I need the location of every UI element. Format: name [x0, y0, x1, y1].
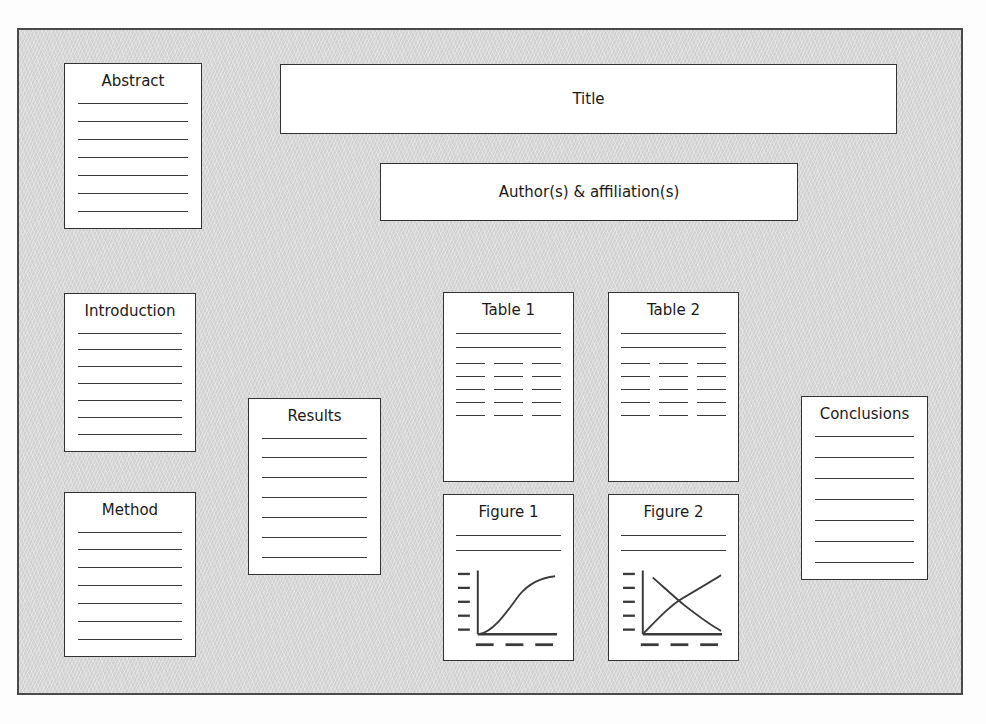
figure-1-caption-lines	[456, 535, 561, 551]
table-row	[621, 402, 726, 403]
text-rule	[78, 333, 182, 334]
table-cell	[697, 402, 726, 403]
table-row	[456, 415, 561, 416]
text-rule	[78, 175, 188, 176]
table-cell	[532, 415, 561, 416]
table-cell	[697, 363, 726, 364]
figure-2-caption-lines	[621, 535, 726, 551]
table-cell	[621, 363, 650, 364]
table-row	[456, 376, 561, 377]
text-rule	[262, 497, 367, 498]
text-rule	[815, 520, 914, 521]
panel-figure-1[interactable]: Figure 1	[443, 494, 574, 661]
table-cell	[621, 376, 650, 377]
table-cell	[532, 376, 561, 377]
text-rule	[78, 211, 188, 212]
panel-conclusions-title: Conclusions	[815, 406, 914, 423]
text-rule	[262, 457, 367, 458]
table-row	[621, 376, 726, 377]
table-cell	[532, 389, 561, 390]
table-cell	[456, 363, 485, 364]
text-rule	[262, 537, 367, 538]
table-2-body	[621, 363, 726, 416]
text-rule	[815, 457, 914, 458]
text-rule	[815, 436, 914, 437]
text-rule	[78, 193, 188, 194]
table-cell	[456, 389, 485, 390]
text-rule	[815, 478, 914, 479]
panel-authors-banner[interactable]: Author(s) & affiliation(s)	[380, 163, 798, 221]
table-header-rule	[456, 347, 561, 348]
abstract-text-lines	[78, 103, 188, 217]
curve-1	[479, 576, 555, 634]
table-row	[621, 415, 726, 416]
table-cell	[621, 415, 650, 416]
table-cell	[494, 415, 523, 416]
poster-board: Abstract Title Author(s) & affiliation(s…	[17, 28, 963, 695]
caption-rule	[456, 535, 561, 536]
panel-table-2[interactable]: Table 2	[608, 292, 739, 482]
text-rule	[815, 562, 914, 563]
text-rule	[78, 400, 182, 401]
table-1-body	[456, 363, 561, 416]
text-rule	[78, 349, 182, 350]
panel-table-2-title: Table 2	[621, 302, 726, 319]
table-cell	[456, 415, 485, 416]
panel-method-title: Method	[78, 502, 182, 519]
panel-figure-2[interactable]: Figure 2	[608, 494, 739, 661]
table-cell	[659, 402, 688, 403]
table-row	[621, 389, 726, 390]
panel-introduction-title: Introduction	[78, 303, 182, 320]
panel-figure-1-title: Figure 1	[456, 504, 561, 521]
table-cell	[697, 389, 726, 390]
table-cell	[621, 402, 650, 403]
table-header-rule	[621, 333, 726, 334]
table-row	[456, 363, 561, 364]
table-header-rule	[621, 347, 726, 348]
text-rule	[262, 557, 367, 558]
table-cell	[659, 389, 688, 390]
table-cell	[697, 376, 726, 377]
text-rule	[78, 383, 182, 384]
panel-introduction[interactable]: Introduction	[64, 293, 196, 452]
figure-1-plot-svg	[456, 567, 561, 651]
introduction-text-lines	[78, 333, 182, 440]
panel-results-title: Results	[262, 408, 367, 425]
table-cell	[494, 389, 523, 390]
text-rule	[78, 603, 182, 604]
panel-abstract[interactable]: Abstract	[64, 63, 202, 229]
method-text-lines	[78, 532, 182, 645]
text-rule	[78, 417, 182, 418]
panel-method[interactable]: Method	[64, 492, 196, 657]
text-rule	[78, 157, 188, 158]
figure-1-chart	[456, 567, 561, 651]
panel-conclusions[interactable]: Conclusions	[801, 396, 928, 580]
text-rule	[78, 532, 182, 533]
panel-title-banner[interactable]: Title	[280, 64, 897, 134]
panel-results[interactable]: Results	[248, 398, 381, 575]
figure-2-chart	[621, 567, 726, 651]
caption-rule	[621, 550, 726, 551]
table-row	[621, 363, 726, 364]
text-rule	[78, 121, 188, 122]
text-rule	[78, 549, 182, 550]
results-text-lines	[262, 438, 367, 563]
table-row	[456, 402, 561, 403]
y-axis-tick-marks	[623, 573, 635, 629]
table-cell	[456, 402, 485, 403]
panel-table-1[interactable]: Table 1	[443, 292, 574, 482]
table-2-header-rules	[621, 333, 726, 348]
conclusions-text-lines	[815, 436, 914, 568]
table-cell	[659, 415, 688, 416]
plot-axes	[478, 570, 557, 634]
table-cell	[659, 376, 688, 377]
table-cell	[659, 363, 688, 364]
text-rule	[262, 517, 367, 518]
text-rule	[78, 585, 182, 586]
table-cell	[621, 389, 650, 390]
table-cell	[494, 376, 523, 377]
caption-rule	[621, 535, 726, 536]
table-cell	[494, 402, 523, 403]
text-rule	[78, 639, 182, 640]
table-cell	[494, 363, 523, 364]
